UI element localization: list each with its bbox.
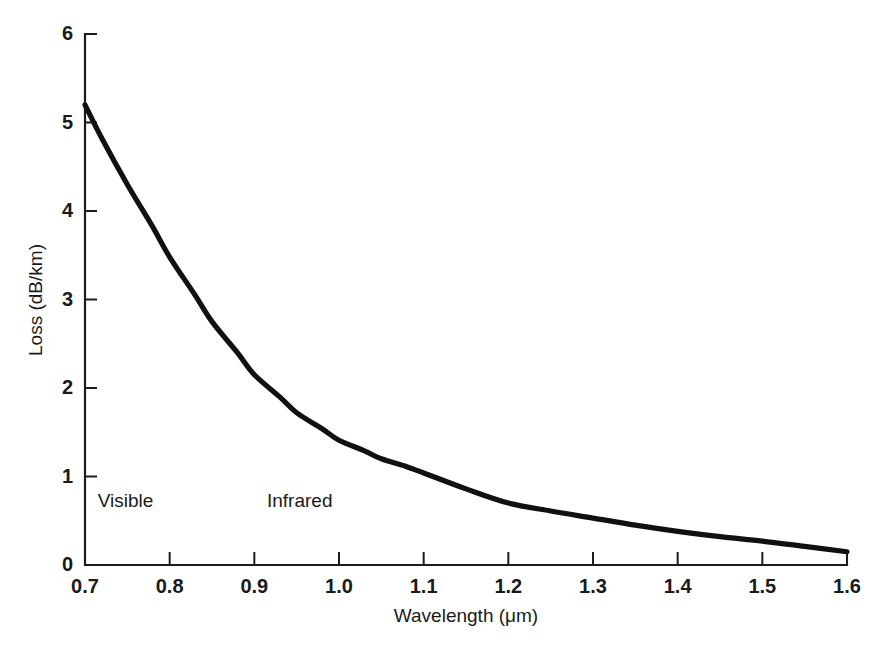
x-tick-label-1.1: 1.1 (410, 575, 438, 597)
loss-curve (85, 105, 847, 552)
x-tick-label-1.4: 1.4 (664, 575, 693, 597)
y-tick-label-6: 6 (62, 22, 73, 44)
x-tick-label-0.9: 0.9 (240, 575, 268, 597)
x-axis-title: Wavelength (μm) (394, 605, 538, 626)
y-tick-label-1: 1 (62, 465, 73, 487)
y-tick-label-4: 4 (62, 199, 74, 221)
y-tick-label-2: 2 (62, 376, 73, 398)
chart-figure: 0123456 0.70.80.91.01.11.21.31.41.51.6 V… (0, 0, 884, 645)
y-axis-title: Loss (dB/km) (25, 244, 46, 356)
x-tick-label-1.0: 1.0 (325, 575, 353, 597)
y-tick-label-0: 0 (62, 553, 73, 575)
x-tick-label-1.3: 1.3 (579, 575, 607, 597)
x-tick-label-1.2: 1.2 (494, 575, 522, 597)
x-tick-label-0.7: 0.7 (71, 575, 99, 597)
y-tick-label-5: 5 (62, 111, 73, 133)
y-tick-label-3: 3 (62, 288, 73, 310)
annotation-infrared: Infrared (267, 490, 332, 511)
x-tick-label-1.6: 1.6 (833, 575, 861, 597)
line-chart-plot: 0123456 0.70.80.91.01.11.21.31.41.51.6 V… (0, 0, 884, 645)
x-tick-label-1.5: 1.5 (748, 575, 776, 597)
x-axis-tick-labels: 0.70.80.91.01.11.21.31.41.51.6 (71, 575, 861, 597)
x-tick-label-0.8: 0.8 (156, 575, 184, 597)
x-axis-ticks (170, 552, 763, 565)
annotation-visible: Visible (98, 490, 154, 511)
y-axis-tick-labels: 0123456 (62, 22, 74, 575)
